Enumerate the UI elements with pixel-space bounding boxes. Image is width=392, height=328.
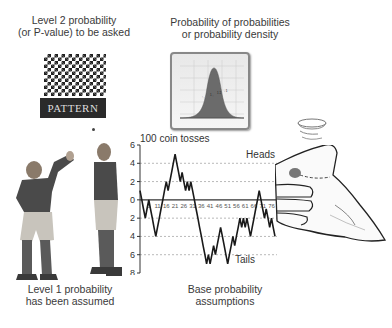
svg-text:: ,: : , (202, 95, 205, 99)
y-tick-label: 6 (130, 250, 135, 260)
y-tick-label: 4 (130, 231, 135, 241)
y-tick-label: 2 (130, 213, 135, 223)
checkerboard-pattern-image (44, 54, 106, 96)
player-tossing-figure (10, 150, 90, 285)
player-head (26, 161, 42, 179)
y-tick-label: 6 (130, 140, 135, 150)
flipping-coin-icon (292, 115, 332, 145)
player-jersey (16, 154, 74, 212)
random-walk-line (140, 154, 275, 264)
chart-title: 100 coin tosses (140, 133, 210, 144)
player2-shorts (94, 200, 118, 230)
x-tick-label: 46 (216, 203, 223, 209)
y-tick-label: 0 (130, 195, 135, 205)
player-socks (22, 240, 52, 275)
x-tick-label: 36 (198, 203, 205, 209)
player-boots (16, 274, 58, 280)
thumb-flick-hand-icon (275, 145, 392, 255)
y-tick-label: 8 (130, 268, 135, 275)
pattern-label: PATTERN (40, 98, 106, 118)
player2-jersey (94, 162, 118, 200)
player2-head (97, 143, 111, 161)
x-tick-label: 16 (163, 203, 170, 209)
x-tick-label: 41 (207, 203, 214, 209)
player2-boots (90, 267, 122, 276)
x-tick-label: 61 (242, 203, 249, 209)
player-shorts (20, 212, 54, 242)
tossed-coin-dot (92, 128, 95, 131)
chart-y-axis: 64202468 (130, 140, 140, 275)
y-tick-label: 2 (130, 177, 135, 187)
heads-annotation: Heads (246, 149, 275, 160)
density-inset-chart: : ,1 ,1 2. 1 (170, 52, 250, 130)
x-tick-label: 11 (154, 203, 161, 209)
x-tick-label: 26 (180, 203, 187, 209)
density-curve-svg: : ,1 ,1 2. 1 (172, 54, 248, 128)
base-probability-label: Base probability assumptions (175, 283, 275, 307)
x-tick-label: 21 (172, 203, 179, 209)
player-watching-figure (88, 140, 123, 280)
svg-text:. 1: . 1 (224, 89, 228, 93)
coin-toss-chart: 100 coin tosses Heads Tails 64202468 611… (120, 125, 280, 275)
svg-text:1 ,: 1 , (210, 93, 214, 97)
x-tick-label: 56 (233, 203, 240, 209)
svg-text:1 2: 1 2 (217, 91, 222, 95)
level2-probability-label: Level 2 probability (or P-value) to be a… (14, 14, 134, 38)
player2-socks (98, 230, 114, 268)
level1-probability-label: Level 1 probability has been assumed (20, 283, 120, 307)
tails-annotation: Tails (235, 254, 255, 265)
probability-density-label: Probability of probabilities or probabil… (160, 16, 300, 40)
x-tick-label: 51 (224, 203, 231, 209)
y-tick-label: 4 (130, 158, 135, 168)
